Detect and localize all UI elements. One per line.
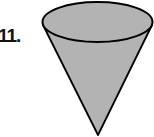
cone-figure [0, 0, 154, 137]
cone-base-ellipse [43, 2, 153, 42]
